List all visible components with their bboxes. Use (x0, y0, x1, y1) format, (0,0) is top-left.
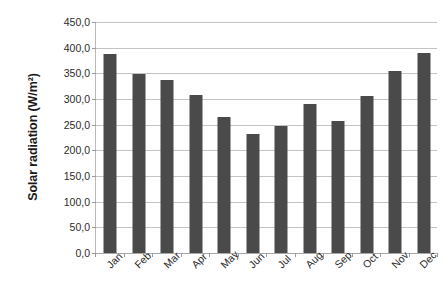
bar[interactable] (246, 134, 259, 253)
bar[interactable] (104, 54, 117, 253)
plot-area (95, 22, 437, 253)
bar-slot (182, 22, 211, 253)
y-axis-tick-label: 300,0 (30, 93, 90, 105)
y-axis-tick-label: 450,0 (30, 16, 90, 28)
bar[interactable] (161, 80, 174, 254)
bar[interactable] (332, 121, 345, 253)
bars-layer (96, 22, 437, 253)
bar[interactable] (360, 96, 373, 253)
bar-slot (210, 22, 239, 253)
y-axis-tick-label: 200,0 (30, 144, 90, 156)
x-axis-tick-mark (95, 253, 96, 257)
x-axis-tick-mark (295, 253, 296, 257)
bar[interactable] (275, 126, 288, 253)
bar[interactable] (389, 71, 402, 253)
bar-slot (96, 22, 125, 253)
x-axis-tick-mark (437, 253, 438, 257)
x-axis-tick-label: Jul (275, 252, 293, 270)
x-axis-tick-mark (209, 253, 210, 257)
bar-slot (153, 22, 182, 253)
bar-slot (410, 22, 439, 253)
y-axis-tick-label: 0,0 (30, 247, 90, 259)
bar-chart: Solar radiation (W/m²) 0,050,0100,0150,0… (0, 0, 448, 303)
x-axis-tick-mark (352, 253, 353, 257)
y-axis-tick-label: 400,0 (30, 42, 90, 54)
x-axis-tick-mark (266, 253, 267, 257)
y-axis-tick-label: 150,0 (30, 170, 90, 182)
bar[interactable] (417, 53, 430, 253)
bar[interactable] (218, 117, 231, 253)
x-axis-tick-mark (409, 253, 410, 257)
x-axis-tick-mark (152, 253, 153, 257)
y-axis-tick-label: 50,0 (30, 221, 90, 233)
bar-slot (296, 22, 325, 253)
bar[interactable] (132, 74, 145, 253)
bar-slot (324, 22, 353, 253)
y-axis-tick-label: 350,0 (30, 67, 90, 79)
bar-slot (353, 22, 382, 253)
bar-slot (381, 22, 410, 253)
bar-slot (267, 22, 296, 253)
x-axis-tick-mark (181, 253, 182, 257)
bar[interactable] (189, 95, 202, 253)
y-axis-tick-label: 100,0 (30, 196, 90, 208)
x-axis-tick-mark (380, 253, 381, 257)
bar-slot (125, 22, 154, 253)
x-axis-tick-mark (124, 253, 125, 257)
y-axis-tick-label: 250,0 (30, 119, 90, 131)
x-axis-tick-mark (323, 253, 324, 257)
bar-slot (239, 22, 268, 253)
bar[interactable] (303, 104, 316, 253)
x-axis-tick-mark (238, 253, 239, 257)
